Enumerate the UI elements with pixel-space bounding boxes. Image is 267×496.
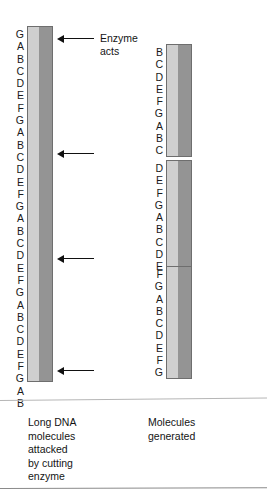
fragment-1-letter-5: G — [147, 107, 163, 119]
arrow-shaft — [62, 38, 94, 39]
long-dna-letter-15: A — [8, 212, 24, 224]
long-dna-letter-0: G — [8, 28, 24, 40]
long-dna-letter-25: D — [8, 335, 24, 347]
fragment-3-letter-8: G — [147, 366, 163, 378]
arrow-shaft — [62, 153, 94, 154]
enzyme-cutting-diagram: GABCDEFGABCDEFGABCDEFGABCDEFGAB Enzyme a… — [0, 0, 267, 496]
strand-light-segment — [28, 27, 39, 381]
long-dna-letter-18: D — [8, 249, 24, 261]
fragment-2-letter-3: G — [147, 199, 163, 211]
long-dna-letter-22: A — [8, 299, 24, 311]
fragment-1-letter-1: C — [147, 58, 163, 70]
long-dna-letter-29: A — [8, 385, 24, 397]
long-dna-letter-27: F — [8, 360, 24, 372]
long-dna-letter-23: B — [8, 311, 24, 323]
caption-left-line-4: enzyme — [28, 470, 128, 484]
long-dna-letter-3: C — [8, 65, 24, 77]
fragment-bar-2 — [166, 160, 192, 273]
fragment-1-letter-column: BCDEFGABC — [147, 46, 163, 157]
long-dna-letter-24: C — [8, 323, 24, 335]
long-dna-bar — [27, 26, 53, 382]
fragment-3-letter-7: F — [147, 354, 163, 366]
cut-arrow-3 — [57, 254, 94, 263]
long-dna-letter-28: G — [8, 372, 24, 384]
long-dna-letter-1: A — [8, 40, 24, 52]
long-dna-letter-21: G — [8, 286, 24, 298]
long-dna-letter-11: D — [8, 163, 24, 175]
strand-light-segment — [167, 267, 178, 378]
caption-left-line-2: attacked — [28, 443, 128, 457]
fragment-2-letter-5: B — [147, 223, 163, 235]
fragment-2-letter-4: A — [147, 211, 163, 223]
caption-left-line-0: Long DNA — [28, 416, 128, 430]
long-dna-letter-26: E — [8, 348, 24, 360]
long-dna-letter-30: B — [8, 397, 24, 409]
fragment-2-letter-column: DEFGABCDE — [147, 162, 163, 273]
fragment-1-letter-2: D — [147, 71, 163, 83]
long-dna-letter-20: F — [8, 274, 24, 286]
fragment-1-letter-7: B — [147, 132, 163, 144]
arrow-shaft — [62, 258, 94, 259]
cut-arrow-2 — [57, 149, 94, 158]
long-dna-letter-column: GABCDEFGABCDEFGABCDEFGABCDEFGAB — [8, 28, 24, 409]
fragment-2-letter-1: E — [147, 174, 163, 186]
caption-left: Long DNAmoleculesattackedby cuttingenzym… — [28, 416, 128, 484]
cut-arrow-1 — [57, 34, 94, 43]
strand-dark-segment — [178, 267, 191, 378]
long-dna-letter-7: G — [8, 114, 24, 126]
long-dna-letter-8: A — [8, 126, 24, 138]
long-dna-letter-10: C — [8, 151, 24, 163]
fragment-3-letter-column: FGABCDEFG — [147, 268, 163, 379]
fragment-1-letter-4: F — [147, 95, 163, 107]
fragment-2-letter-6: C — [147, 236, 163, 248]
cut-arrow-4 — [57, 366, 94, 375]
long-dna-letter-4: D — [8, 77, 24, 89]
long-dna-letter-6: F — [8, 102, 24, 114]
long-dna-letter-12: E — [8, 176, 24, 188]
fragment-2-letter-2: F — [147, 187, 163, 199]
fragment-1-letter-0: B — [147, 46, 163, 58]
long-dna-letter-19: E — [8, 262, 24, 274]
caption-left-line-1: molecules — [28, 430, 128, 444]
long-dna-letter-9: B — [8, 139, 24, 151]
enzyme-acts-line-1: Enzyme — [100, 32, 138, 44]
arrow-shaft — [62, 370, 94, 371]
strand-dark-segment — [39, 27, 52, 381]
caption-left-line-3: by cutting — [28, 457, 128, 471]
caption-right: Moleculesgenerated — [148, 416, 248, 443]
strand-dark-segment — [178, 45, 191, 156]
divider-upper — [0, 397, 267, 401]
long-dna-letter-5: E — [8, 89, 24, 101]
strand-light-segment — [167, 45, 178, 156]
divider-lower — [0, 487, 267, 489]
fragment-3-letter-2: A — [147, 293, 163, 305]
fragment-1-letter-3: E — [147, 83, 163, 95]
caption-right-line-0: Molecules — [148, 416, 248, 430]
fragment-1-letter-6: A — [147, 120, 163, 132]
long-dna-letter-13: F — [8, 188, 24, 200]
long-dna-letter-16: B — [8, 225, 24, 237]
long-dna-letter-2: B — [8, 53, 24, 65]
fragment-1-letter-8: C — [147, 144, 163, 156]
fragment-3-letter-3: B — [147, 305, 163, 317]
fragment-3-letter-0: F — [147, 268, 163, 280]
long-dna-letter-17: C — [8, 237, 24, 249]
fragment-3-letter-5: D — [147, 329, 163, 341]
strand-dark-segment — [178, 161, 191, 272]
fragment-bar-1 — [166, 44, 192, 157]
fragment-2-letter-7: D — [147, 248, 163, 260]
fragment-3-letter-1: G — [147, 280, 163, 292]
strand-light-segment — [167, 161, 178, 272]
enzyme-acts-line-2: acts — [100, 45, 119, 57]
fragment-bar-3 — [166, 266, 192, 379]
fragment-3-letter-4: C — [147, 317, 163, 329]
fragment-3-letter-6: E — [147, 342, 163, 354]
caption-right-line-1: generated — [148, 430, 248, 444]
fragment-2-letter-0: D — [147, 162, 163, 174]
long-dna-letter-14: G — [8, 200, 24, 212]
